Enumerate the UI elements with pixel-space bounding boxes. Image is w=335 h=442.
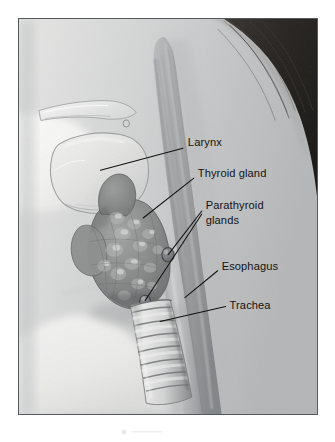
illustration-frame: Larynx Thyroid gland Parathyroid glands xyxy=(18,18,318,415)
grain-overlay xyxy=(19,19,317,414)
anatomy-illustration: Larynx Thyroid gland Parathyroid glands xyxy=(19,19,317,414)
label-thyroid-gland-text: Thyroid gland xyxy=(198,167,267,179)
label-parathyroid-text-line1: Parathyroid xyxy=(206,199,264,211)
label-larynx-text: Larynx xyxy=(188,136,222,148)
label-esophagus-text: Esophagus xyxy=(222,260,279,272)
label-trachea-text: Trachea xyxy=(230,299,272,311)
scan-artifact xyxy=(118,428,170,436)
figure-root: Larynx Thyroid gland Parathyroid glands xyxy=(0,0,335,442)
label-parathyroid-text-line2: glands xyxy=(206,214,240,226)
